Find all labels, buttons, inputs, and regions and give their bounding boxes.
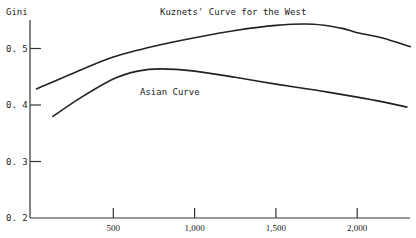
gini-chart: Gini Kuznets' Curve for the West Asian C… [0,0,416,238]
y-axis-label: Gini [6,7,28,17]
y-tick-label: 0. 5 [6,44,28,54]
x-tick-label: 500 [107,223,121,233]
y-tick-label: 0. 4 [6,100,28,110]
x-tick-label: 1,500 [266,223,287,233]
y-tick-label: 0. 2 [6,213,28,223]
asian-curve [52,69,407,117]
asian-curve-label: Asian Curve [140,87,200,97]
west-curve-label: Kuznets' Curve for the West [160,7,306,17]
x-tick-label: 2,000 [347,223,368,233]
y-tick-label: 0. 3 [6,157,28,167]
west-kuznets-curve [36,24,411,89]
x-tick-label: 1,000 [184,223,205,233]
